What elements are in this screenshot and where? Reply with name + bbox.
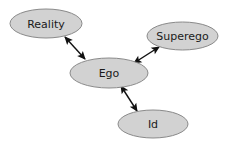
node-ego[interactable]: Ego <box>70 58 148 88</box>
edge-reality-ego <box>65 37 85 59</box>
node-superego-label: Superego <box>156 30 209 43</box>
edge-ego-superego <box>134 47 159 63</box>
psyche-structure-diagram: Reality Superego Ego Id <box>0 0 228 154</box>
edge-ego-id <box>121 86 137 111</box>
diagram-canvas: Reality Superego Ego Id <box>0 0 228 154</box>
node-id[interactable]: Id <box>118 110 188 138</box>
node-reality-label: Reality <box>27 18 65 31</box>
node-reality[interactable]: Reality <box>10 9 82 38</box>
node-id-label: Id <box>148 118 158 131</box>
node-ego-label: Ego <box>99 67 120 80</box>
node-superego[interactable]: Superego <box>147 22 218 50</box>
nodes-layer: Reality Superego Ego Id <box>10 9 218 138</box>
